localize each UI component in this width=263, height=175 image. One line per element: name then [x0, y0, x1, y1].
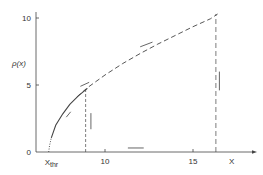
y-tick-label: 0 — [27, 148, 32, 157]
x-tick-label: 10 — [101, 157, 110, 166]
series-threshold-onset — [49, 138, 52, 152]
y-tick-label: 10 — [22, 14, 31, 23]
x-axis-arrow — [252, 150, 257, 154]
labels: ρ(x) X 05101015Xthr — [11, 14, 235, 168]
chart: ρ(x) X 05101015Xthr — [0, 0, 263, 175]
marks — [49, 14, 220, 152]
mark-parallel-mark-1 — [66, 112, 70, 117]
x-tick-label: 15 — [189, 157, 198, 166]
mark-parallel-mark-3 — [140, 42, 152, 47]
x-threshold-subscript: thr — [50, 161, 59, 168]
axes — [36, 12, 257, 154]
x-threshold-label: Xthr — [45, 158, 59, 168]
y-tick-label: 5 — [27, 81, 32, 90]
y-axis-label: ρ(x) — [11, 59, 26, 68]
x-axis-label: X — [229, 157, 235, 166]
mark-parallel-mark-2 — [80, 82, 89, 86]
series-dashed-curve — [77, 14, 218, 97]
